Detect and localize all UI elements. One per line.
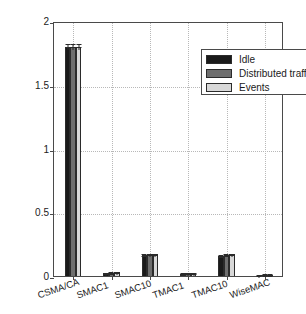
bar-group [218, 254, 234, 276]
bar-group [142, 254, 158, 276]
legend-swatch-events [206, 83, 232, 92]
gridline [188, 23, 189, 276]
legend-item: Distributed traffic [206, 67, 306, 80]
bar [76, 47, 81, 277]
gridline [150, 23, 151, 276]
legend-swatch-idle [206, 55, 232, 64]
error-bar-cap [262, 276, 267, 277]
y-tick-label: 0 [43, 272, 49, 282]
gridline [54, 151, 282, 152]
legend-label-events: Events [239, 82, 270, 93]
error-bar-cap [153, 255, 158, 256]
legend-item: Idle [206, 53, 306, 66]
y-tick-mark [50, 87, 54, 88]
error-bar-cap [114, 273, 119, 274]
y-tick-mark [50, 278, 54, 279]
bar [153, 254, 158, 276]
x-tick-mark [227, 276, 228, 280]
figure-bar-chart-average-power: Average power [mW] 00.511.52 CSMA/CASMAC… [0, 0, 306, 314]
y-tick-label: 2 [43, 17, 49, 27]
y-tick-label: 0.5 [35, 208, 49, 218]
bar-group [65, 47, 81, 277]
error-bar-cap [191, 274, 196, 275]
legend: Idle Distributed traffic Events [201, 49, 306, 95]
bar [268, 275, 273, 276]
bar [191, 273, 196, 276]
x-tick-mark [73, 276, 74, 280]
error-bar-cap [65, 44, 70, 45]
bar-group [257, 275, 273, 276]
x-category-label: TMAC1 [151, 280, 185, 301]
bar-group [180, 273, 196, 276]
error-bar-cap [76, 44, 81, 45]
error-bar-cap [76, 47, 81, 48]
y-tick-mark [50, 23, 54, 24]
gridline [54, 214, 282, 215]
x-category-label: SMAC10 [113, 278, 153, 301]
legend-label-idle: Idle [239, 54, 255, 65]
y-tick-label: 1 [43, 145, 49, 155]
bar [229, 254, 234, 276]
error-bar-cap [268, 276, 273, 277]
plot-area: Idle Distributed traffic Events [53, 22, 283, 277]
legend-label-distributed-traffic: Distributed traffic [239, 68, 306, 79]
bar-group [103, 272, 119, 276]
error-bar-cap [257, 276, 262, 277]
x-category-label: SMAC1 [75, 279, 110, 300]
x-category-label: TMAC10 [190, 278, 229, 301]
x-tick-mark [112, 276, 113, 280]
y-tick-mark [50, 214, 54, 215]
error-bar-cap [71, 44, 76, 45]
bar [114, 272, 119, 276]
legend-swatch-distributed-traffic [206, 69, 232, 78]
x-tick-mark [150, 276, 151, 280]
y-tick-mark [50, 151, 54, 152]
gridline [112, 23, 113, 276]
x-tick-mark [188, 276, 189, 280]
legend-item: Events [206, 81, 306, 94]
error-bar-cap [229, 255, 234, 256]
y-tick-label: 1.5 [35, 81, 49, 91]
